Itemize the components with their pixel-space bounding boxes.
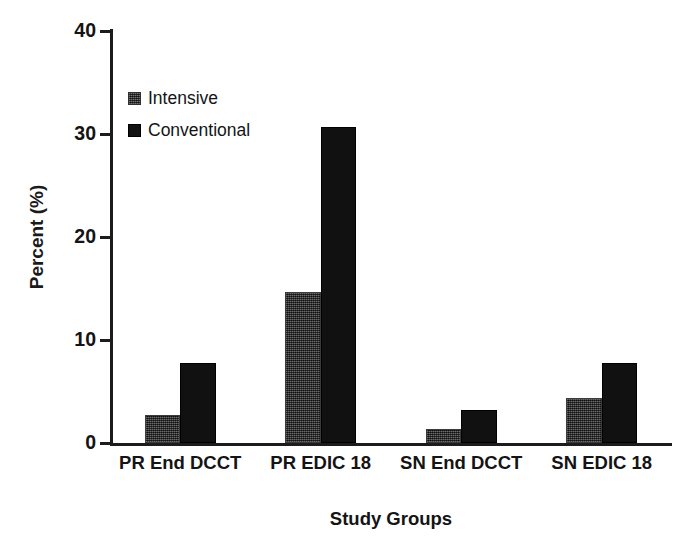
x-axis-category-labels: PR End DCCTPR EDIC 18SN End DCCTSN EDIC … xyxy=(110,452,672,482)
bar-conventional-sn-end-dcct xyxy=(461,410,497,443)
legend-label-conventional: Conventional xyxy=(148,120,250,141)
x-category-label-1: PR End DCCT xyxy=(110,452,251,474)
y-tick-label-10: 10 xyxy=(40,330,96,350)
bar-intensive-pr-edic-18 xyxy=(285,292,321,443)
x-axis-line xyxy=(110,443,672,446)
cropped-caption-sliver xyxy=(0,541,699,549)
x-category-label-4: SN EDIC 18 xyxy=(532,452,673,474)
legend-label-intensive: Intensive xyxy=(148,88,218,109)
y-tick-label-20: 20 xyxy=(40,227,96,247)
x-category-label-3: SN End DCCT xyxy=(391,452,532,474)
y-tick-label-30: 30 xyxy=(40,124,96,144)
bar-conventional-pr-edic-18 xyxy=(321,127,357,443)
legend-item-conventional: Conventional xyxy=(128,114,328,146)
bar-chart-figure: Percent (%) 40 30 20 10 0 Intensive Conv… xyxy=(0,0,699,549)
legend-item-intensive: Intensive xyxy=(128,82,328,114)
bar-conventional-pr-end-dcct xyxy=(180,363,216,443)
x-category-label-2: PR EDIC 18 xyxy=(251,452,392,474)
gray-square-icon xyxy=(128,92,141,105)
black-square-icon xyxy=(128,124,141,137)
bar-intensive-sn-end-dcct xyxy=(426,429,462,443)
y-tick-label-0: 0 xyxy=(40,433,96,453)
bar-intensive-sn-edic-18 xyxy=(566,398,602,443)
bar-intensive-pr-end-dcct xyxy=(145,415,181,443)
y-tick-label-40: 40 xyxy=(40,21,96,41)
x-axis-title: Study Groups xyxy=(110,508,672,530)
bar-conventional-sn-edic-18 xyxy=(602,363,638,443)
y-axis-tick-labels: 40 30 20 10 0 xyxy=(38,0,96,549)
chart-legend: Intensive Conventional xyxy=(128,82,328,146)
